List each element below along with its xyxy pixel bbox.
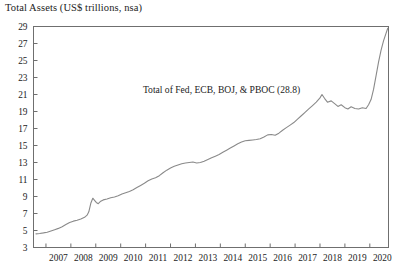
chart-container: Total Assets (US$ trillions, nsa) 357911… xyxy=(0,0,401,278)
x-tick-label: 2014 xyxy=(223,253,242,263)
y-tick-label: 5 xyxy=(23,226,28,236)
chart-annotation-label: Total of Fed, ECB, BOJ, & PBOC (28.8) xyxy=(143,84,300,96)
y-axis-tick-marks xyxy=(34,27,38,248)
y-tick-label: 25 xyxy=(18,56,28,66)
y-tick-label: 21 xyxy=(18,90,28,100)
x-tick-label: 2019 xyxy=(348,253,367,263)
x-tick-label: 2016 xyxy=(273,253,292,263)
y-tick-label: 29 xyxy=(18,22,28,32)
x-axis-tick-marks xyxy=(46,244,370,248)
total-assets-line xyxy=(36,28,388,234)
y-tick-label: 23 xyxy=(18,73,28,83)
x-tick-label: 2013 xyxy=(199,253,218,263)
y-tick-label: 19 xyxy=(18,107,28,117)
x-tick-label: 2010 xyxy=(124,253,143,263)
y-tick-label: 15 xyxy=(18,141,28,151)
line-chart-plot: 357911131517192123252729 200720082009201… xyxy=(0,0,401,278)
x-axis-tick-labels: 2007200820092010201120122013201420152016… xyxy=(49,253,392,263)
y-tick-label: 11 xyxy=(18,175,27,185)
x-tick-label: 2009 xyxy=(99,253,118,263)
x-tick-label: 2008 xyxy=(74,253,93,263)
x-tick-label: 2017 xyxy=(298,253,317,263)
y-tick-label: 9 xyxy=(23,192,28,202)
y-tick-label: 27 xyxy=(18,39,28,49)
x-tick-label: 2015 xyxy=(248,253,267,263)
chart-annotations: Total of Fed, ECB, BOJ, & PBOC (28.8) xyxy=(143,84,300,96)
y-tick-label: 7 xyxy=(23,209,28,219)
y-tick-label: 13 xyxy=(18,158,28,168)
x-tick-label: 2012 xyxy=(174,253,193,263)
y-axis-tick-labels: 357911131517192123252729 xyxy=(18,22,28,253)
y-tick-label: 17 xyxy=(18,124,28,134)
plot-area-frame xyxy=(34,27,389,248)
x-tick-label: 2011 xyxy=(149,253,168,263)
x-tick-label: 2007 xyxy=(49,253,68,263)
x-tick-label: 2020 xyxy=(373,253,392,263)
x-tick-label: 2018 xyxy=(323,253,342,263)
y-tick-label: 3 xyxy=(23,243,28,253)
